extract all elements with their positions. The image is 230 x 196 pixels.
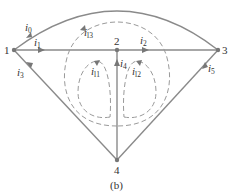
- circuit-graph-diagram: 1 2 3 4 i0 i1 i2 i3 i4 i5 il3 il1 il2 (b…: [0, 0, 230, 196]
- arrow-il1-icon: [94, 60, 100, 66]
- node-1: [12, 48, 16, 52]
- node-3-label: 3: [222, 44, 228, 56]
- node-2-label: 2: [114, 35, 120, 47]
- label-i1: i1: [34, 36, 41, 50]
- arrow-il2-icon: [136, 60, 142, 66]
- label-il1: il1: [91, 65, 100, 79]
- figure-caption: (b): [110, 179, 123, 192]
- label-i3: i3: [17, 66, 24, 80]
- label-i4: i4: [120, 57, 127, 71]
- label-i0: i0: [25, 21, 32, 35]
- label-i5: i5: [208, 62, 215, 76]
- label-i2: i2: [140, 34, 147, 48]
- node-4: [115, 158, 119, 162]
- node-2: [115, 48, 119, 52]
- node-3: [216, 48, 220, 52]
- label-il2: il2: [132, 65, 141, 79]
- node-1-label: 1: [4, 44, 10, 56]
- node-4-label: 4: [114, 164, 120, 176]
